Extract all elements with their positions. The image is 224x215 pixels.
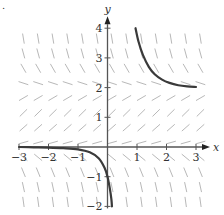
slope-segment: [94, 125, 101, 131]
slope-segment: [37, 49, 39, 58]
slope-segment: [170, 49, 172, 58]
slope-segment: [64, 110, 71, 117]
slope-segment: [19, 82, 28, 85]
slope-segment: [95, 64, 100, 72]
slope-segment: [66, 168, 70, 177]
slope-segment: [20, 110, 27, 117]
slope-segment: [181, 82, 190, 85]
x-axis-arrow-icon: [202, 144, 210, 150]
axes: x y −3−2−1123 −2−11234: [11, 3, 220, 213]
slope-segment: [170, 182, 172, 191]
slope-segment: [166, 141, 175, 144]
slope-segment: [141, 197, 142, 206]
slope-segment: [64, 96, 72, 101]
slope-segment: [82, 34, 84, 43]
x-tick-label: −2: [40, 151, 56, 164]
slope-segment: [22, 168, 26, 177]
slope-segment: [199, 182, 201, 191]
slope-segment: [181, 141, 190, 144]
slope-segment: [138, 110, 145, 117]
slope-segment: [81, 182, 83, 191]
slope-segment: [51, 64, 56, 72]
slope-segment: [48, 141, 57, 144]
slope-segment: [81, 49, 83, 58]
slope-segment: [36, 168, 40, 177]
slope-segment: [137, 96, 145, 101]
slope-segment: [35, 110, 42, 117]
slope-segment: [199, 49, 201, 58]
slope-segment: [122, 141, 131, 144]
slope-segment: [197, 110, 204, 117]
slope-segment: [182, 125, 189, 131]
slope-segment: [67, 197, 68, 206]
slope-segment: [50, 110, 57, 117]
slope-segment: [107, 82, 116, 85]
slope-segment: [23, 34, 25, 43]
y-tick-label: −2: [86, 200, 102, 213]
slope-segment: [81, 168, 85, 177]
slope-segment: [140, 182, 142, 191]
slope-segment: [108, 96, 116, 101]
y-tick-label: 3: [96, 52, 103, 65]
slope-segment: [169, 64, 174, 72]
y-tick-label: −1: [86, 171, 102, 184]
slope-segment: [23, 197, 24, 206]
slope-segment: [137, 141, 146, 144]
figure-mark: .: [2, 0, 5, 11]
slope-segment: [182, 96, 190, 101]
slope-segment: [37, 182, 39, 191]
slope-segment: [93, 141, 102, 144]
slope-segment: [185, 197, 186, 206]
slope-segment: [200, 197, 201, 206]
slope-segment: [52, 49, 54, 58]
slope-segment: [109, 110, 116, 117]
slope-segment: [38, 197, 39, 206]
slope-segment: [126, 34, 128, 43]
slope-segment: [78, 96, 86, 101]
slope-segment: [184, 49, 186, 58]
slope-segment: [107, 141, 116, 144]
slope-segment: [34, 96, 42, 101]
slope-segment: [140, 168, 144, 177]
slope-segment: [78, 82, 87, 85]
slope-segment: [123, 96, 131, 101]
slope-segment: [153, 154, 160, 160]
x-tick-label: −3: [11, 151, 27, 164]
slope-segment: [34, 141, 43, 144]
slope-segment: [51, 168, 55, 177]
slope-segment: [35, 125, 42, 131]
slope-segment: [141, 34, 143, 43]
slope-segment: [154, 64, 159, 72]
slope-segment: [67, 34, 69, 43]
slope-segment: [169, 168, 173, 177]
slope-segment: [96, 34, 98, 43]
slope-segment: [22, 182, 24, 191]
slope-segment: [182, 154, 189, 160]
slope-segment: [139, 64, 144, 72]
slope-segment: [170, 197, 171, 206]
slope-segment: [111, 49, 113, 58]
slope-segment: [170, 34, 172, 43]
slope-segment: [185, 34, 187, 43]
slope-segment: [63, 82, 72, 85]
slope-field-plot: . x y −3−2−1123 −2−11234: [0, 0, 224, 215]
slope-segment: [19, 96, 27, 101]
x-tick-label: 1: [134, 151, 141, 164]
slope-segment: [82, 197, 83, 206]
slope-segment: [19, 141, 28, 144]
slope-segment: [138, 125, 145, 131]
slope-segment: [66, 49, 68, 58]
slope-segment: [196, 141, 205, 144]
slope-segment: [167, 96, 175, 101]
slope-segment: [185, 182, 187, 191]
slope-segment: [126, 182, 128, 191]
slope-segment: [111, 34, 113, 43]
slope-segment: [64, 125, 71, 131]
slope-segment: [78, 141, 87, 144]
slope-segment: [125, 49, 127, 58]
slope-segment: [154, 168, 158, 177]
slope-segment: [93, 96, 101, 101]
y-axis-label: y: [104, 3, 112, 16]
slope-segment: [182, 110, 189, 117]
y-tick-label: 4: [96, 22, 103, 35]
